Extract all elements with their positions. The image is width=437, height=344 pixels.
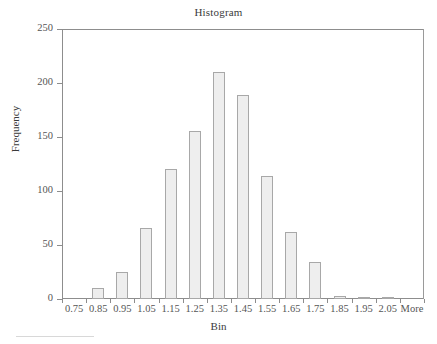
histogram-bar: [261, 176, 273, 299]
histogram-bar: [382, 297, 394, 299]
y-axis-tick-label: 250: [37, 22, 53, 33]
histogram-bar: [285, 232, 297, 299]
histogram-bar: [334, 296, 346, 299]
x-axis-tick-label: 1.45: [234, 303, 252, 314]
x-axis-tick-label: 1.75: [306, 303, 324, 314]
x-axis-tick-label: 1.35: [210, 303, 228, 314]
x-axis-tick-mark: [279, 299, 280, 303]
histogram-figure: Histogram Frequency 050100150200250 0.75…: [0, 0, 437, 344]
x-axis-tick-label: 2.05: [379, 303, 397, 314]
histogram-bar: [116, 272, 128, 299]
x-axis-tick-label: 0.95: [113, 303, 131, 314]
y-axis-tick-label: 200: [37, 76, 53, 87]
x-axis-tick-label: 1.15: [161, 303, 179, 314]
y-axis-tick-mark: [57, 29, 62, 30]
x-axis-tick-mark: [424, 299, 425, 303]
x-axis-tick-mark: [207, 299, 208, 303]
x-axis-tick-label: 0.85: [89, 303, 107, 314]
histogram-bar: [189, 131, 201, 299]
histogram-bar: [165, 169, 177, 299]
x-axis-tick-label: 1.95: [354, 303, 372, 314]
histogram-bar: [237, 95, 249, 299]
y-axis-tick-mark: [57, 83, 62, 84]
y-axis-tick-label: 0: [48, 292, 53, 303]
x-axis-tick-mark: [376, 299, 377, 303]
y-axis-tick-label: 100: [37, 184, 53, 195]
x-axis-title: Bin: [0, 320, 437, 332]
x-axis-tick-label: More: [401, 303, 424, 314]
x-axis-tick-label: 1.65: [282, 303, 300, 314]
histogram-bar: [92, 288, 104, 299]
x-axis-tick-label: 1.85: [330, 303, 348, 314]
x-axis-tick-label: 1.55: [258, 303, 276, 314]
chart-title: Histogram: [0, 6, 437, 18]
x-axis-tick-mark: [352, 299, 353, 303]
x-axis-tick-label: 1.25: [186, 303, 204, 314]
x-axis-tick-mark: [327, 299, 328, 303]
y-axis-tick-mark: [57, 245, 62, 246]
x-axis-tick-mark: [86, 299, 87, 303]
scan-artifact-line: [16, 336, 94, 337]
x-axis-tick-mark: [303, 299, 304, 303]
histogram-bar: [140, 228, 152, 299]
x-axis-tick-label: 1.05: [137, 303, 155, 314]
x-axis-tick-label: 0.75: [65, 303, 83, 314]
y-axis-tick-mark: [57, 137, 62, 138]
x-axis-tick-mark: [231, 299, 232, 303]
x-axis-tick-mark: [110, 299, 111, 303]
y-axis-tick-label: 150: [37, 130, 53, 141]
y-axis-tick-mark: [57, 191, 62, 192]
histogram-bar: [309, 262, 321, 299]
y-axis-tick-label: 50: [43, 238, 54, 249]
histogram-bar: [358, 297, 370, 299]
x-axis-tick-mark: [255, 299, 256, 303]
plot-right-border: [423, 29, 424, 299]
x-axis-tick-mark: [159, 299, 160, 303]
y-axis-title: Frequency: [9, 89, 21, 169]
x-axis-tick-mark: [62, 299, 63, 303]
x-axis-tick-mark: [183, 299, 184, 303]
x-axis-tick-mark: [134, 299, 135, 303]
histogram-bar: [213, 72, 225, 299]
